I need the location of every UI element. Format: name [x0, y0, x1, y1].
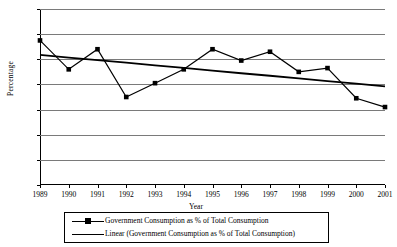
x-tick-mark — [299, 185, 300, 188]
plot-area: 1618202224262830 — [40, 9, 385, 185]
data-point-marker[interactable] — [383, 105, 388, 110]
x-tick-mark — [155, 185, 156, 188]
data-series-layer — [40, 9, 385, 185]
x-tick-mark — [213, 185, 214, 188]
x-tick-mark — [126, 185, 127, 188]
x-tick-label: 2001 — [368, 191, 397, 199]
data-point-marker[interactable] — [239, 58, 244, 63]
data-point-marker[interactable] — [325, 66, 330, 71]
legend-label-trendline: Linear (Government Consumption as % of T… — [105, 230, 295, 238]
data-point-marker[interactable] — [296, 70, 301, 75]
legend-label-series: Government Consumption as % of Total Con… — [105, 217, 269, 225]
x-tick-mark — [241, 185, 242, 188]
data-point-marker[interactable] — [153, 81, 158, 86]
data-point-marker[interactable] — [354, 96, 359, 101]
x-axis-title: Year — [0, 202, 392, 211]
chart-legend: Government Consumption as % of Total Con… — [64, 212, 329, 243]
x-tick-mark — [40, 185, 41, 188]
x-tick-mark — [184, 185, 185, 188]
data-point-marker[interactable] — [38, 38, 43, 43]
plot-wrapper: Percentage 1618202224262830 198919901991… — [0, 0, 392, 190]
data-point-marker[interactable] — [95, 47, 100, 52]
legend-item-series[interactable]: Government Consumption as % of Total Con… — [71, 216, 322, 227]
data-point-marker[interactable] — [268, 49, 273, 54]
legend-marker-line-icon — [71, 216, 105, 227]
trendline-path — [40, 55, 385, 86]
y-axis-title: Percentage — [6, 44, 15, 114]
x-tick-mark — [69, 185, 70, 188]
data-point-marker[interactable] — [210, 47, 215, 52]
x-tick-mark — [270, 185, 271, 188]
x-tick-mark — [385, 185, 386, 188]
legend-item-trendline[interactable]: Linear (Government Consumption as % of T… — [71, 229, 322, 240]
data-point-marker[interactable] — [124, 95, 129, 100]
x-tick-mark — [356, 185, 357, 188]
legend-line-icon — [71, 229, 105, 240]
data-point-marker[interactable] — [66, 67, 71, 72]
x-tick-mark — [98, 185, 99, 188]
x-tick-mark — [328, 185, 329, 188]
